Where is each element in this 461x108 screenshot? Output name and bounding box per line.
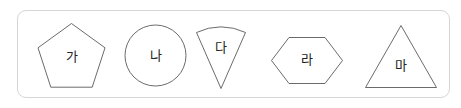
shapes-canvas: 가 나 다 라 마 (0, 0, 461, 108)
circular-sector-shape-icon (197, 27, 246, 89)
sector-shape-label: 다 (215, 40, 227, 55)
shape-item-hexagon: 라 (272, 38, 343, 84)
pentagon-shape-label: 가 (66, 49, 78, 64)
shape-item-sector: 다 (197, 27, 246, 89)
shape-figure: 가 나 다 라 마 (0, 0, 461, 108)
shape-item-pentagon: 가 (38, 24, 105, 88)
shape-item-triangle: 마 (366, 26, 437, 88)
shape-item-circle: 나 (125, 25, 186, 86)
triangle-shape-icon (366, 26, 437, 88)
circle-shape-label: 나 (150, 48, 162, 63)
triangle-shape-label: 마 (395, 58, 407, 73)
hexagon-shape-label: 라 (301, 52, 313, 67)
